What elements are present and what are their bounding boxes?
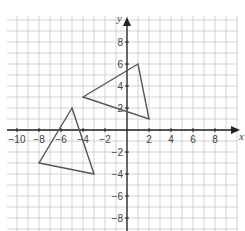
x-tick-label: −10 bbox=[9, 134, 26, 145]
y-tick-label: −4 bbox=[112, 169, 124, 180]
x-tick-label: −6 bbox=[55, 134, 67, 145]
axes bbox=[7, 17, 240, 231]
x-tick-label: 8 bbox=[212, 134, 218, 145]
y-tick-label: 6 bbox=[117, 59, 123, 70]
y-tick-label: −8 bbox=[112, 213, 124, 224]
y-tick-label: 8 bbox=[117, 37, 123, 48]
coordinate-plane: −10−8−6−4−224688642−2−4−6−8 x y bbox=[0, 0, 245, 231]
y-tick-label: 4 bbox=[117, 81, 123, 92]
x-tick-label: 6 bbox=[190, 134, 196, 145]
x-axis-label: x bbox=[238, 130, 244, 142]
y-axis-label: y bbox=[116, 12, 122, 24]
y-tick-label: −2 bbox=[112, 147, 124, 158]
y-axis-arrow-icon bbox=[123, 17, 131, 26]
x-tick-label: −8 bbox=[33, 134, 45, 145]
x-tick-label: 2 bbox=[146, 134, 152, 145]
x-tick-label: 4 bbox=[168, 134, 174, 145]
x-tick-label: −2 bbox=[99, 134, 111, 145]
y-tick-label: −6 bbox=[112, 191, 124, 202]
y-tick-label: 2 bbox=[117, 103, 123, 114]
